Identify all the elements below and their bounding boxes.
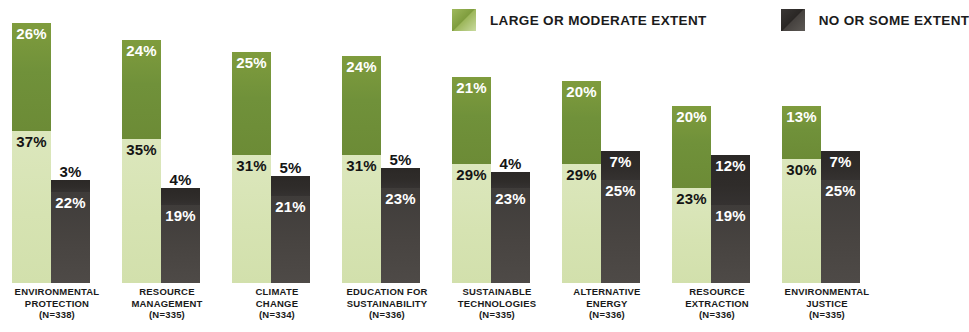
- value-label-green-bottom-alternative-energy: 29%: [562, 167, 601, 182]
- bar-large-or-moderate-alternative-energy[interactable]: 20%29%: [562, 81, 601, 283]
- x-axis-sample-size-environmental-justice: (N=335): [772, 309, 882, 321]
- bar-large-or-moderate-education-for-sustainability[interactable]: 24%31%: [342, 56, 381, 283]
- x-axis-label-line: RESOURCE: [112, 286, 222, 298]
- x-axis-label-line: ENVIRONMENTAL: [2, 286, 112, 298]
- segment-green-bottom-climate-change: 31%: [232, 155, 271, 283]
- bar-no-or-some-climate-change[interactable]: 21%: [271, 176, 310, 283]
- bar-group-environmental-protection: 26%37%22%3%: [2, 0, 112, 283]
- x-axis-sample-size-environmental-protection: (N=338): [2, 309, 112, 321]
- x-axis-labels: ENVIRONMENTALPROTECTION(N=338)RESOURCEMA…: [0, 286, 882, 332]
- value-label-green-bottom-climate-change: 31%: [232, 158, 271, 173]
- segment-dark-top-alternative-energy: 7%: [601, 151, 640, 180]
- value-label-dark-top-climate-change: 5%: [271, 160, 310, 175]
- bar-large-or-moderate-environmental-protection[interactable]: 26%37%: [12, 23, 51, 283]
- value-label-green-top-climate-change: 25%: [232, 55, 271, 70]
- x-axis-label-line: ENERGY: [552, 298, 662, 310]
- bar-group-resource-management: 24%35%19%4%: [112, 0, 222, 283]
- x-axis-label-line: CHANGE: [222, 298, 332, 310]
- x-axis-label-line: RESOURCE: [662, 286, 772, 298]
- x-axis-label-environmental-justice: ENVIRONMENTALJUSTICE(N=335): [772, 286, 882, 321]
- segment-green-top-resource-management: 24%: [122, 40, 161, 139]
- bar-large-or-moderate-climate-change[interactable]: 25%31%: [232, 52, 271, 283]
- value-label-dark-bottom-education-for-sustainability: 23%: [381, 191, 420, 206]
- segment-dark-bottom-alternative-energy: 25%: [601, 180, 640, 283]
- bar-no-or-some-resource-extraction[interactable]: 12%19%: [711, 155, 750, 283]
- bar-large-or-moderate-resource-extraction[interactable]: 20%23%: [672, 106, 711, 283]
- x-axis-label-line: ALTERNATIVE: [552, 286, 662, 298]
- x-axis-sample-size-resource-extraction: (N=336): [662, 309, 772, 321]
- value-label-dark-top-education-for-sustainability: 5%: [381, 152, 420, 167]
- segment-dark-bottom-environmental-protection: 22%: [51, 192, 90, 283]
- value-label-dark-bottom-alternative-energy: 25%: [601, 183, 640, 198]
- segment-dark-bottom-climate-change: 21%: [271, 196, 310, 283]
- value-label-green-bottom-resource-extraction: 23%: [672, 191, 711, 206]
- x-axis-sample-size-sustainable-technologies: (N=335): [442, 309, 552, 321]
- bar-large-or-moderate-sustainable-technologies[interactable]: 21%29%: [452, 77, 491, 283]
- value-label-dark-bottom-climate-change: 21%: [271, 199, 310, 214]
- value-label-green-bottom-sustainable-technologies: 29%: [452, 167, 491, 182]
- segment-green-bottom-education-for-sustainability: 31%: [342, 155, 381, 283]
- segment-green-bottom-resource-management: 35%: [122, 139, 161, 283]
- value-label-green-bottom-resource-management: 35%: [122, 142, 161, 157]
- bar-no-or-some-education-for-sustainability[interactable]: 23%: [381, 168, 420, 283]
- segment-green-top-alternative-energy: 20%: [562, 81, 601, 163]
- value-label-dark-bottom-environmental-protection: 22%: [51, 195, 90, 210]
- x-axis-label-alternative-energy: ALTERNATIVEENERGY(N=336): [552, 286, 662, 321]
- segment-green-top-climate-change: 25%: [232, 52, 271, 155]
- x-axis-label-line: EDUCATION FOR: [332, 286, 442, 298]
- segment-dark-bottom-environmental-justice: 25%: [821, 180, 860, 283]
- x-axis-label-environmental-protection: ENVIRONMENTALPROTECTION(N=338): [2, 286, 112, 321]
- bar-large-or-moderate-environmental-justice[interactable]: 13%30%: [782, 106, 821, 283]
- x-axis-label-line: JUSTICE: [772, 298, 882, 310]
- value-label-green-bottom-environmental-justice: 30%: [782, 162, 821, 177]
- x-axis-label-resource-management: RESOURCEMANAGEMENT(N=335): [112, 286, 222, 321]
- segment-dark-bottom-education-for-sustainability: 23%: [381, 188, 420, 283]
- segment-green-top-environmental-justice: 13%: [782, 106, 821, 160]
- segment-dark-bottom-sustainable-technologies: 23%: [491, 188, 530, 283]
- segment-green-top-environmental-protection: 26%: [12, 23, 51, 130]
- bar-no-or-some-environmental-protection[interactable]: 22%: [51, 180, 90, 283]
- value-label-dark-bottom-environmental-justice: 25%: [821, 183, 860, 198]
- value-label-green-top-environmental-protection: 26%: [12, 26, 51, 41]
- x-axis-sample-size-climate-change: (N=334): [222, 309, 332, 321]
- segment-dark-top-environmental-protection: [51, 180, 90, 192]
- bar-large-or-moderate-resource-management[interactable]: 24%35%: [122, 40, 161, 283]
- x-axis-label-sustainable-technologies: SUSTAINABLETECHNOLOGIES(N=335): [442, 286, 552, 321]
- value-label-dark-top-resource-extraction: 12%: [711, 158, 750, 173]
- segment-green-bottom-environmental-justice: 30%: [782, 159, 821, 283]
- bar-chart-plot-area: 26%37%22%3%24%35%19%4%25%31%21%5%24%31%2…: [0, 0, 882, 283]
- value-label-green-bottom-environmental-protection: 37%: [12, 134, 51, 149]
- value-label-dark-bottom-resource-extraction: 19%: [711, 208, 750, 223]
- segment-dark-top-resource-management: [161, 188, 200, 204]
- bar-no-or-some-sustainable-technologies[interactable]: 23%: [491, 172, 530, 283]
- value-label-green-top-alternative-energy: 20%: [562, 84, 601, 99]
- x-axis-sample-size-resource-management: (N=335): [112, 309, 222, 321]
- bar-group-resource-extraction: 20%23%12%19%: [662, 0, 772, 283]
- bar-no-or-some-alternative-energy[interactable]: 7%25%: [601, 151, 640, 283]
- segment-green-top-sustainable-technologies: 21%: [452, 77, 491, 164]
- segment-dark-bottom-resource-management: 19%: [161, 205, 200, 283]
- segment-green-bottom-resource-extraction: 23%: [672, 188, 711, 283]
- value-label-green-top-education-for-sustainability: 24%: [342, 59, 381, 74]
- x-axis-label-line: EXTRACTION: [662, 298, 772, 310]
- value-label-green-top-environmental-justice: 13%: [782, 109, 821, 124]
- value-label-dark-top-resource-management: 4%: [161, 172, 200, 187]
- x-axis-label-line: SUSTAINABLE: [442, 286, 552, 298]
- bar-no-or-some-resource-management[interactable]: 19%: [161, 188, 200, 283]
- value-label-green-top-resource-management: 24%: [122, 43, 161, 58]
- value-label-green-bottom-education-for-sustainability: 31%: [342, 158, 381, 173]
- bar-group-environmental-justice: 13%30%7%25%: [772, 0, 882, 283]
- value-label-dark-bottom-sustainable-technologies: 23%: [491, 191, 530, 206]
- value-label-dark-top-sustainable-technologies: 4%: [491, 156, 530, 171]
- segment-dark-top-resource-extraction: 12%: [711, 155, 750, 204]
- x-axis-label-education-for-sustainability: EDUCATION FORSUSTAINABILITY(N=336): [332, 286, 442, 321]
- segment-green-top-education-for-sustainability: 24%: [342, 56, 381, 155]
- segment-dark-top-sustainable-technologies: [491, 172, 530, 188]
- x-axis-label-line: PROTECTION: [2, 298, 112, 310]
- value-label-dark-top-alternative-energy: 7%: [601, 154, 640, 169]
- x-axis-label-line: ENVIRONMENTAL: [772, 286, 882, 298]
- x-axis-label-resource-extraction: RESOURCEEXTRACTION(N=336): [662, 286, 772, 321]
- bar-group-education-for-sustainability: 24%31%23%5%: [332, 0, 442, 283]
- value-label-green-top-resource-extraction: 20%: [672, 109, 711, 124]
- bar-no-or-some-environmental-justice[interactable]: 7%25%: [821, 151, 860, 283]
